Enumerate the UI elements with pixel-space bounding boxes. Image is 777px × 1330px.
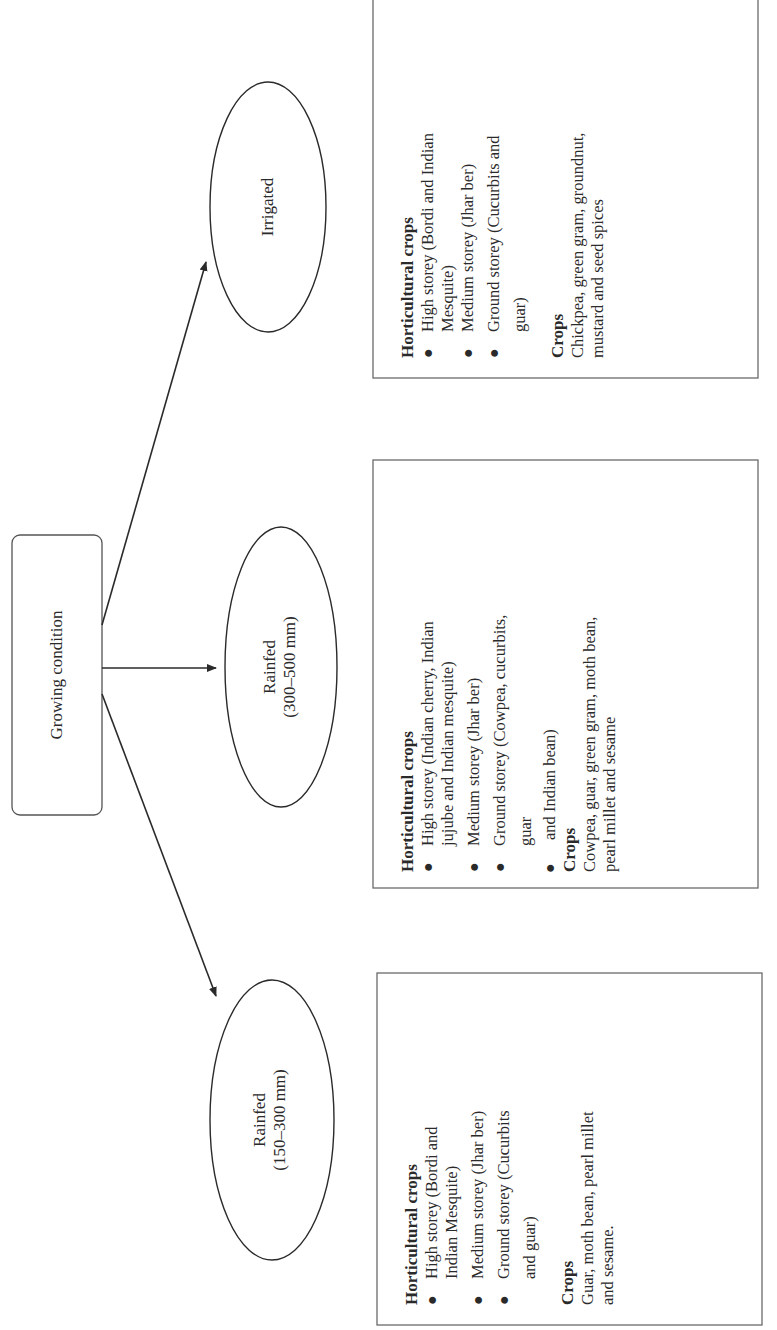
hort-item-text: Medium storey (Jhar ber) <box>468 1111 487 1279</box>
bullet-icon: ● <box>422 1295 442 1305</box>
node-rainfed-150-300-line1: Rainfed <box>250 1055 270 1185</box>
list-item: and guar) <box>520 985 540 1305</box>
hort-item-text: guar <box>516 817 535 846</box>
hort-item-text: Mesquite) <box>438 265 457 332</box>
list-item: ●High storey (Bordi and Indian <box>418 18 438 358</box>
list-item: guar) <box>510 18 530 358</box>
node-rainfed-300-500-line1: Rainfed <box>260 602 280 732</box>
hort-item-text: and Indian bean) <box>540 729 559 840</box>
hort-item-text: Indian Mesquite) <box>442 1166 461 1279</box>
node-irrigated-label: Irrigated <box>258 147 278 267</box>
node-irrigated-line1: Irrigated <box>258 147 278 267</box>
box-irrigated-content: Horticultural crops ●High storey (Bordi … <box>398 18 608 358</box>
hort-heading: Horticultural crops <box>398 18 418 358</box>
crops-line: Guar, moth bean, pearl millet <box>578 985 598 1305</box>
list-item: ●Medium storey (Jhar ber) <box>464 472 484 872</box>
bullet-icon: ● <box>458 348 478 358</box>
list-item: ●Ground storey (Cowpea, cucurbits, <box>490 472 510 872</box>
arrow-to-irrigated <box>102 262 206 625</box>
node-rainfed-300-500-line2: (300–500 mm) <box>280 602 300 732</box>
list-item: guar <box>516 472 536 872</box>
crops-heading: Crops <box>558 985 578 1305</box>
box-rainfed-300-500-content: Horticultural crops ●High storey (Indian… <box>398 472 620 872</box>
list-item: Mesquite) <box>438 18 458 358</box>
bullet-icon: ● <box>540 863 560 873</box>
root-node-text: Growing condition <box>47 611 66 740</box>
crops-heading: Crops <box>548 18 568 358</box>
bullet-icon: ● <box>468 1295 488 1305</box>
list-item: ●Medium storey (Jhar ber) <box>468 985 488 1305</box>
hort-item-text: Ground storey (Cucurbits and <box>484 135 503 332</box>
node-rainfed-300-500-label: Rainfed (300–500 mm) <box>260 602 300 732</box>
crops-line: Cowpea, guar, green gram, moth bean, <box>580 472 600 872</box>
list-item: ●High storey (Bordi and <box>422 985 442 1305</box>
hort-list: ●High storey (Bordi and Indian Mesquite)… <box>422 985 540 1305</box>
list-item: Indian Mesquite) <box>442 985 462 1305</box>
crops-line: and sesame. <box>598 985 618 1305</box>
bullet-icon: ● <box>418 348 438 358</box>
crops-heading: Crops <box>560 472 580 872</box>
bullet-icon: ● <box>494 1295 514 1305</box>
node-rainfed-150-300-line2: (150–300 mm) <box>270 1055 290 1185</box>
bullet-icon: ● <box>490 862 510 872</box>
list-item: ●Medium storey (Jhar ber) <box>458 18 478 358</box>
hort-heading: Horticultural crops <box>402 985 422 1305</box>
hort-item-text: Medium storey (Jhar ber) <box>464 678 483 846</box>
hort-item-text: guar) <box>510 297 529 332</box>
hort-item-text: Medium storey (Jhar ber) <box>458 164 477 332</box>
hort-item-text: High storey (Indian cherry, Indian <box>418 621 437 846</box>
hort-item-text: High storey (Bordi and <box>422 1126 441 1279</box>
hort-item-text: Ground storey (Cowpea, cucurbits, <box>490 615 509 846</box>
root-node-label: Growing condition <box>47 535 67 815</box>
hort-list: ●High storey (Indian cherry, Indian juju… <box>418 472 560 872</box>
hort-item-text: and guar) <box>520 1216 539 1279</box>
list-item: ●Ground storey (Cucurbits <box>494 985 514 1305</box>
box-rainfed-150-300-content: Horticultural crops ●High storey (Bordi … <box>402 985 618 1305</box>
hort-item-text: Ground storey (Cucurbits <box>494 1110 513 1279</box>
bullet-icon: ● <box>418 862 438 872</box>
bullet-icon: ● <box>464 862 484 872</box>
hort-heading: Horticultural crops <box>398 472 418 872</box>
diagram-canvas <box>0 0 777 1330</box>
crops-line: pearl millet and sesame <box>600 472 620 872</box>
hort-list: ●High storey (Bordi and Indian Mesquite)… <box>418 18 530 358</box>
list-item: ●High storey (Indian cherry, Indian <box>418 472 438 872</box>
crops-line: mustard and seed spices <box>588 18 608 358</box>
hort-item-text: High storey (Bordi and Indian <box>418 133 437 332</box>
arrow-to-rainfed-150-300 <box>102 694 216 996</box>
list-item: ●Ground storey (Cucurbits and <box>484 18 504 358</box>
bullet-icon: ● <box>484 348 504 358</box>
list-item: jujube and Indian mesquite) <box>438 472 458 872</box>
crops-line: Chickpea, green gram, groundnut, <box>568 18 588 358</box>
node-rainfed-150-300-label: Rainfed (150–300 mm) <box>250 1055 290 1185</box>
hort-item-text: jujube and Indian mesquite) <box>438 661 457 846</box>
list-item: ●and Indian bean) <box>540 472 560 872</box>
